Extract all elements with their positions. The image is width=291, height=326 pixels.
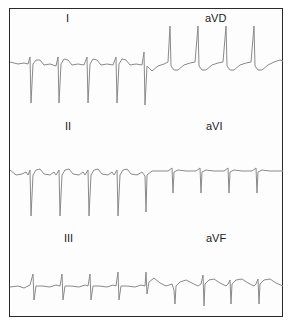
ecg-traces (0, 0, 291, 326)
trace-lead-avd (147, 26, 283, 71)
trace-lead-avi (147, 168, 283, 193)
trace-lead-i (10, 52, 147, 105)
trace-lead-iii (10, 272, 166, 300)
trace-lead-ii (10, 169, 147, 216)
trace-lead-avf (166, 275, 283, 306)
